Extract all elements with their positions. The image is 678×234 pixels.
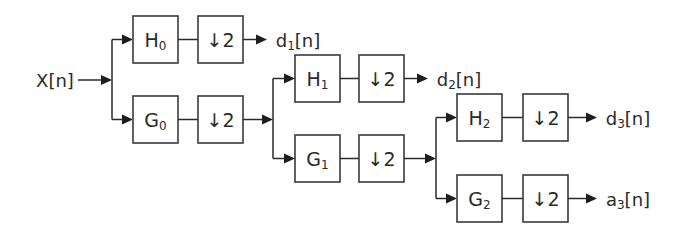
input-arrow-arrowhead (101, 75, 112, 85)
highpass-filter-h2-label-subscript: 2 (483, 117, 491, 131)
highpass-filter-h1-label-symbol: H (307, 68, 321, 90)
lowpass-filter-g1-label-symbol: G (306, 148, 321, 170)
stage-1-highpass-in-arrowhead (284, 74, 295, 84)
approx-output-arrow-arrowhead (586, 194, 597, 204)
approx-output-a3: a3[n] (606, 188, 650, 212)
detail-output-d3-suffix: [n] (625, 107, 650, 128)
stage-0-lowpass-in-arrowhead (122, 115, 133, 125)
detail-output-d1-symbol: d (276, 29, 287, 50)
highpass-filter-h0-label-symbol: H (145, 29, 159, 51)
approx-output-a3-suffix: [n] (625, 188, 650, 209)
detail-output-d3-symbol: d (606, 107, 617, 128)
lowpass-filter-g1-label-subscript: 1 (321, 158, 329, 172)
stage-0-to-next-arrow-arrowhead (262, 115, 273, 125)
stage-1-lowpass-in-arrowhead (284, 154, 295, 164)
downsample-g0-label: ↓2 (206, 109, 234, 131)
lowpass-filter-g0-label-symbol: G (144, 109, 159, 131)
detail-output-d2-subscript: 2 (448, 78, 456, 92)
lowpass-filter-g2-label-subscript: 2 (483, 198, 491, 212)
detail-output-1-arrow-arrowhead (417, 74, 428, 84)
stage-2-lowpass-in-arrowhead (446, 194, 457, 204)
detail-output-0-arrow-arrowhead (256, 35, 267, 45)
approx-output-a3-symbol: a (606, 188, 617, 209)
highpass-filter-h0-label-subscript: 0 (159, 39, 167, 53)
lowpass-filter-g2-label-symbol: G (468, 188, 483, 210)
downsample-h1-label: ↓2 (367, 68, 395, 90)
wavelet-filter-bank-diagram: X[n]H0G0↓2↓2d1[n]H1G1↓2↓2d2[n]H2G2↓2↓2d3… (0, 0, 678, 234)
approx-output-a3-subscript: 3 (617, 198, 625, 212)
highpass-filter-h1-label-subscript: 1 (321, 78, 329, 92)
detail-output-d2-suffix: [n] (456, 68, 481, 89)
downsample-g1-label: ↓2 (367, 148, 395, 170)
downsample-g2-label: ↓2 (531, 188, 559, 210)
detail-output-2-arrow-arrowhead (586, 113, 597, 123)
downsample-h2-label: ↓2 (531, 107, 559, 129)
detail-output-d3: d3[n] (606, 107, 651, 131)
stage-2-highpass-in-arrowhead (446, 113, 457, 123)
stage-0-highpass-in-arrowhead (122, 35, 133, 45)
detail-output-d2-symbol: d (437, 68, 448, 89)
highpass-filter-h2-label-symbol: H (469, 107, 483, 129)
lowpass-filter-g0-label-subscript: 0 (159, 119, 167, 133)
detail-output-d1-subscript: 1 (287, 39, 295, 53)
detail-output-d3-subscript: 3 (617, 117, 625, 131)
detail-output-d1: d1[n] (276, 29, 321, 53)
downsample-h0-label: ↓2 (206, 29, 234, 51)
detail-output-d2: d2[n] (437, 68, 482, 92)
detail-output-d1-suffix: [n] (295, 29, 320, 50)
input-signal-label: X[n] (36, 70, 74, 91)
stage-1-to-next-arrow-arrowhead (425, 154, 436, 164)
